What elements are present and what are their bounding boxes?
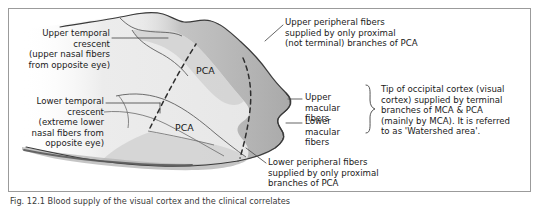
label-lower-peripheral-fibers: Lower peripheral fibers supplied by only…: [268, 157, 438, 189]
label-upper-peripheral-fibers: Upper peripheral fibers supplied by only…: [285, 17, 465, 49]
figure-container: PCA PCA Upper temporal crescent (upper n…: [0, 0, 540, 207]
label-watershed-note: Tip of occipital cortex (visual cortex) …: [381, 84, 529, 137]
label-upper-temporal-crescent: Upper temporal crescent (upper nasal fib…: [14, 28, 110, 70]
label-lower-temporal-crescent: Lower temporal crescent (extreme lower n…: [14, 96, 104, 149]
label-lower-macular-fibers: Lower macular fibers: [305, 116, 367, 148]
figure-caption: Fig. 12.1 Blood supply of the visual cor…: [10, 197, 290, 206]
